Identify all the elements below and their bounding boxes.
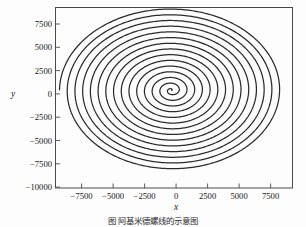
x-axis-ticks xyxy=(82,184,271,189)
x-tick-label: 2500 xyxy=(199,191,216,201)
y-tick-label: 2500 xyxy=(35,66,52,76)
y-tick-label: −7500 xyxy=(30,159,52,169)
x-axis-title: x xyxy=(173,202,179,212)
spiral-plot: 7500 5000 2500 0 −2500 −5000 −7500 −1000… xyxy=(0,0,306,227)
x-tick-label: −7500 xyxy=(71,191,93,201)
y-tick-label: −10000 xyxy=(26,182,52,192)
x-tick-label: 7500 xyxy=(262,191,279,201)
x-tick-label: 5000 xyxy=(231,191,248,201)
y-axis-ticks xyxy=(56,24,61,187)
y-tick-label: −2500 xyxy=(30,112,52,122)
x-tick-labels: −7500 −5000 −2500 0 2500 5000 7500 xyxy=(71,191,280,201)
y-axis-title: y xyxy=(10,89,16,99)
figure-caption: 图 阿基米德螺线的示意图 xyxy=(108,216,198,226)
y-tick-labels: 7500 5000 2500 0 −2500 −5000 −7500 −1000… xyxy=(26,19,52,192)
x-tick-label: 0 xyxy=(174,191,178,201)
figure-container: 7500 5000 2500 0 −2500 −5000 −7500 −1000… xyxy=(0,0,306,227)
x-tick-label: −5000 xyxy=(102,191,124,201)
y-tick-label: 0 xyxy=(48,89,52,99)
spiral-curve xyxy=(60,9,280,169)
y-tick-label: 7500 xyxy=(35,19,52,29)
y-tick-label: 5000 xyxy=(35,42,52,52)
y-tick-label: −5000 xyxy=(30,136,52,146)
x-tick-label: −2500 xyxy=(134,191,156,201)
